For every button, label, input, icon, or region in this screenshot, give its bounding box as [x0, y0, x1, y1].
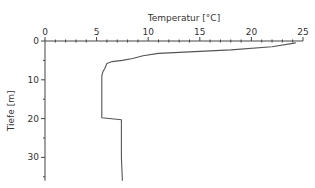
y-tick-label: 0: [33, 36, 39, 46]
x-tick-label: 5: [94, 27, 100, 37]
y-axis-label: Tiefe [m]: [6, 91, 16, 133]
x-tick-label: 0: [42, 27, 48, 37]
x-tick-label: 20: [246, 27, 258, 37]
temperature-depth-chart: 05101520250102030Temperatur [°C]Tiefe [m…: [0, 0, 315, 188]
y-tick-label: 20: [28, 114, 40, 124]
temperature-profile-line: [102, 43, 296, 181]
x-tick-label: 15: [194, 27, 205, 37]
x-tick-label: 10: [142, 27, 154, 37]
x-tick-label: 25: [297, 27, 308, 37]
y-tick-label: 30: [28, 152, 40, 162]
x-axis-label: Temperatur [°C]: [147, 13, 220, 23]
y-tick-label: 10: [28, 75, 40, 85]
